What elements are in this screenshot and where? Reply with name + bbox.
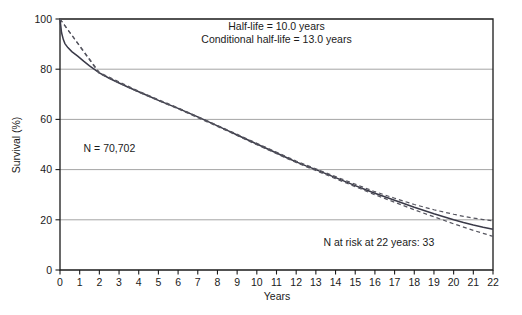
chart-annotations: Half-life = 10.0 yearsConditional half-l…	[84, 20, 435, 248]
x-tick-label-22: 22	[487, 276, 499, 288]
x-tick-label-21: 21	[467, 276, 479, 288]
x-tick-label-10: 10	[251, 276, 263, 288]
x-tick-label-0: 0	[57, 276, 63, 288]
annotation-conditional-half-life: Conditional half-life = 13.0 years	[201, 33, 351, 45]
x-tick-label-13: 13	[310, 276, 322, 288]
x-tick-label-16: 16	[369, 276, 381, 288]
annotation-sample-size: N = 70,702	[84, 142, 136, 154]
y-tick-label-20: 20	[40, 214, 52, 226]
annotation-half-life: Half-life = 10.0 years	[228, 20, 325, 32]
survival-chart: 012345678910111213141516171819202122 020…	[0, 0, 522, 315]
y-tick-label-80: 80	[40, 63, 52, 75]
x-tick-label-17: 17	[389, 276, 401, 288]
x-tick-label-12: 12	[290, 276, 302, 288]
x-tick-label-19: 19	[428, 276, 440, 288]
x-tick-label-8: 8	[215, 276, 221, 288]
x-tick-label-1: 1	[77, 276, 83, 288]
annotation-n-at-risk: N at risk at 22 years: 33	[323, 236, 434, 248]
x-tick-label-11: 11	[271, 276, 282, 288]
x-tick-label-9: 9	[234, 276, 240, 288]
x-tick-label-15: 15	[349, 276, 361, 288]
y-tick-label-0: 0	[46, 264, 52, 276]
x-tick-label-3: 3	[116, 276, 122, 288]
x-tick-label-6: 6	[175, 276, 181, 288]
series-1	[60, 19, 493, 221]
x-tick-label-4: 4	[136, 276, 142, 288]
x-axis-ticks	[60, 270, 493, 275]
series-2	[60, 19, 493, 236]
y-tick-labels: 020406080100	[34, 13, 52, 276]
x-tick-label-18: 18	[408, 276, 420, 288]
survival-plot-svg: 012345678910111213141516171819202122 020…	[0, 0, 522, 315]
data-series	[60, 19, 493, 236]
y-tick-label-60: 60	[40, 113, 52, 125]
x-tick-label-2: 2	[96, 276, 102, 288]
series-0	[60, 19, 493, 229]
x-tick-label-7: 7	[195, 276, 201, 288]
y-axis-ticks	[56, 19, 61, 270]
x-tick-label-20: 20	[448, 276, 460, 288]
x-tick-label-5: 5	[155, 276, 161, 288]
x-axis-title: Years	[264, 290, 290, 302]
x-tick-label-14: 14	[330, 276, 342, 288]
x-tick-labels: 012345678910111213141516171819202122	[57, 276, 499, 288]
y-tick-label-100: 100	[34, 13, 52, 25]
y-axis-title: Survival (%)	[10, 117, 22, 174]
y-tick-label-40: 40	[40, 163, 52, 175]
